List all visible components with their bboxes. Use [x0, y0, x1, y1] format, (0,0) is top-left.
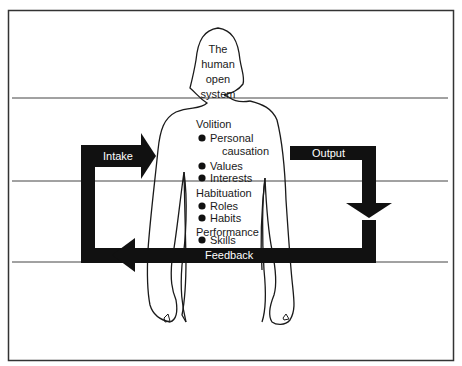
head-label: The human open system: [201, 43, 236, 100]
system-components-list: Volition Personal causation Values Inter…: [196, 118, 269, 246]
item-habits: Habits: [210, 212, 242, 224]
head-line-1: The: [209, 43, 228, 55]
feedback-label: Feedback: [205, 249, 254, 261]
output-down-bar: [362, 146, 376, 208]
item-personal: Personal: [210, 132, 253, 144]
intake-label: Intake: [103, 150, 133, 162]
item-roles: Roles: [210, 200, 239, 212]
item-causation: causation: [222, 145, 269, 157]
bullet-icon: [198, 236, 205, 243]
head-line-2: human: [201, 58, 235, 70]
item-skills: Skills: [210, 234, 236, 246]
bullet-icon: [198, 162, 205, 169]
item-interests: Interests: [210, 172, 253, 184]
output-label: Output: [312, 147, 345, 159]
volition-heading: Volition: [196, 118, 231, 130]
bullet-icon: [198, 134, 205, 141]
habituation-heading: Habituation: [196, 187, 252, 199]
feedback-arrowhead-icon: [112, 238, 135, 272]
human-open-system-diagram: The human open system Intake Output Feed…: [0, 0, 462, 366]
bullet-icon: [198, 214, 205, 221]
item-values: Values: [210, 160, 243, 172]
intake-arrowhead-icon: [141, 133, 156, 179]
bullet-icon: [198, 174, 205, 181]
bullet-icon: [198, 202, 205, 209]
head-line-4: system: [201, 88, 236, 100]
output-arrowhead-icon: [346, 203, 392, 218]
head-line-3: open: [206, 73, 230, 85]
